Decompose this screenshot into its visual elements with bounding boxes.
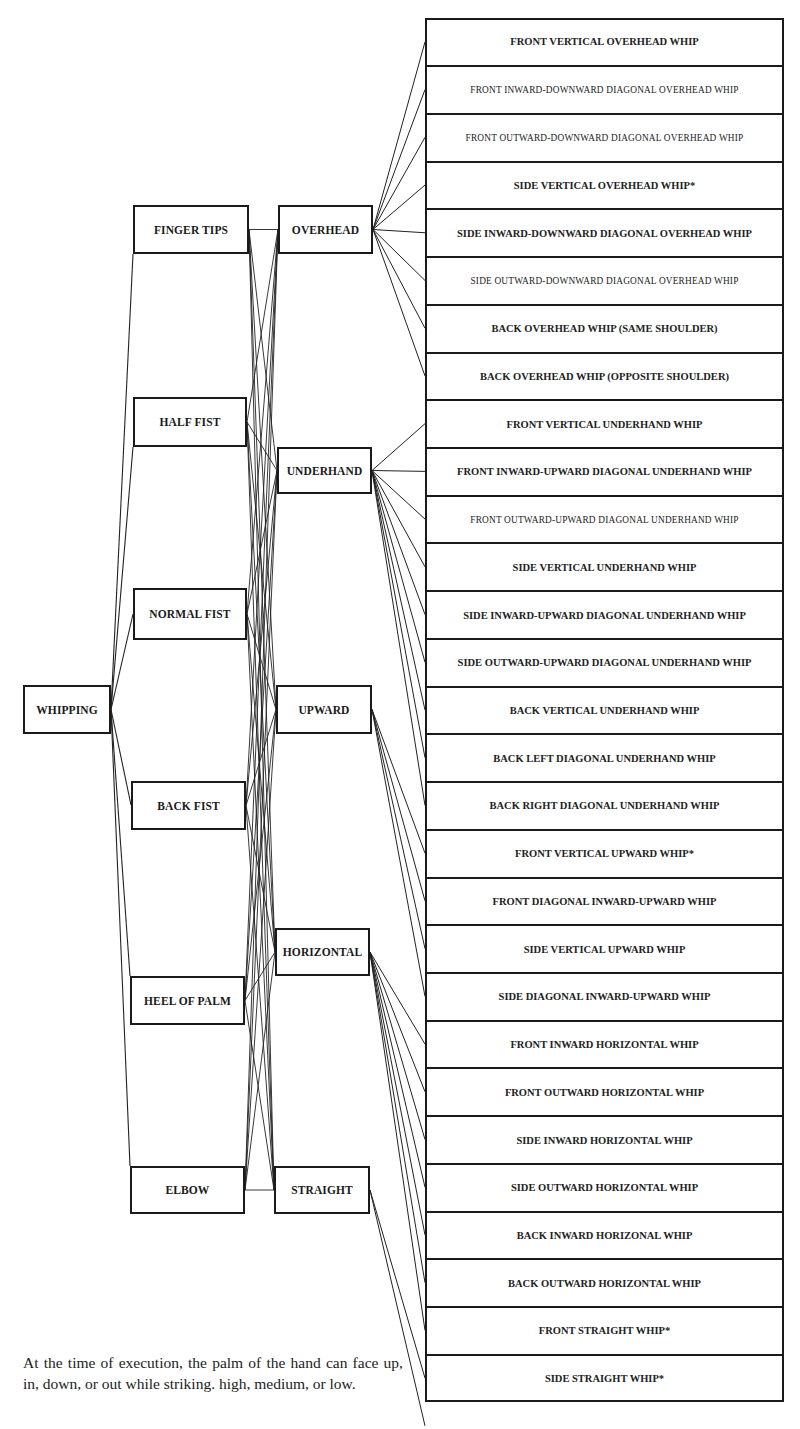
direction-horizontal: HORIZONTAL	[275, 928, 370, 976]
hand-part-half-fist: HALF FIST	[133, 397, 247, 447]
technique-row: FRONT STRAIGHT WHIP*	[427, 1306, 782, 1354]
whipping-diagram: WHIPPING FINGER TIPS HALF FIST NORMAL FI…	[0, 0, 800, 1429]
direction-upward: UPWARD	[276, 685, 372, 734]
technique-list: FRONT VERTICAL OVERHEAD WHIPFRONT INWARD…	[425, 18, 784, 1402]
direction-label: HORIZONTAL	[283, 946, 362, 958]
technique-row: SIDE INWARD HORIZONTAL WHIP	[427, 1115, 782, 1163]
caption-note: At the time of execution, the palm of th…	[23, 1352, 403, 1394]
hand-part-back-fist: BACK FIST	[131, 781, 246, 830]
hand-part-normal-fist: NORMAL FIST	[133, 588, 247, 640]
root-node-label: WHIPPING	[36, 704, 98, 716]
direction-straight: STRAIGHT	[274, 1166, 370, 1214]
technique-row: BACK RIGHT DIAGONAL UNDERHAND WHIP	[427, 781, 782, 829]
technique-row: BACK OVERHEAD WHIP (OPPOSITE SHOULDER)	[427, 352, 782, 400]
hand-part-finger-tips: FINGER TIPS	[133, 205, 249, 254]
technique-row: FRONT VERTICAL UNDERHAND WHIP	[427, 399, 782, 447]
technique-row: SIDE VERTICAL OVERHEAD WHIP*	[427, 161, 782, 209]
technique-row: FRONT OUTWARD HORIZONTAL WHIP	[427, 1067, 782, 1115]
technique-row: FRONT DIAGONAL INWARD-UPWARD WHIP	[427, 877, 782, 925]
hand-part-label: NORMAL FIST	[149, 608, 230, 620]
hand-part-label: ELBOW	[166, 1184, 210, 1196]
technique-row: SIDE DIAGONAL INWARD-UPWARD WHIP	[427, 972, 782, 1020]
technique-row: BACK LEFT DIAGONAL UNDERHAND WHIP	[427, 733, 782, 781]
technique-row: SIDE VERTICAL UPWARD WHIP	[427, 924, 782, 972]
technique-row: FRONT OUTWARD-DOWNWARD DIAGONAL OVERHEAD…	[427, 113, 782, 161]
technique-row: BACK OVERHEAD WHIP (SAME SHOULDER)	[427, 304, 782, 352]
hand-part-heel-of-palm: HEEL OF PALM	[130, 976, 245, 1025]
technique-row: SIDE INWARD-UPWARD DIAGONAL UNDERHAND WH…	[427, 590, 782, 638]
technique-row: FRONT OUTWARD-UPWARD DIAGONAL UNDERHAND …	[427, 495, 782, 543]
technique-row: FRONT VERTICAL UPWARD WHIP*	[427, 829, 782, 877]
technique-row: SIDE STRAIGHT WHIP*	[427, 1354, 782, 1402]
hand-part-label: HEEL OF PALM	[144, 995, 231, 1007]
technique-row: BACK VERTICAL UNDERHAND WHIP	[427, 686, 782, 734]
technique-row: BACK INWARD HORIZONAL WHIP	[427, 1211, 782, 1259]
direction-label: UNDERHAND	[287, 465, 363, 477]
hand-part-label: HALF FIST	[160, 416, 221, 428]
technique-row: SIDE OUTWARD-UPWARD DIAGONAL UNDERHAND W…	[427, 638, 782, 686]
technique-row: BACK OUTWARD HORIZONTAL WHIP	[427, 1258, 782, 1306]
hand-part-label: BACK FIST	[157, 800, 220, 812]
technique-row: SIDE OUTWARD-DOWNWARD DIAGONAL OVERHEAD …	[427, 256, 782, 304]
direction-label: OVERHEAD	[292, 224, 359, 236]
direction-underhand: UNDERHAND	[277, 447, 372, 494]
direction-overhead: OVERHEAD	[278, 205, 373, 254]
technique-row: FRONT INWARD HORIZONTAL WHIP	[427, 1020, 782, 1068]
hand-part-label: FINGER TIPS	[154, 224, 228, 236]
direction-label: STRAIGHT	[291, 1184, 353, 1196]
technique-row: FRONT INWARD-DOWNWARD DIAGONAL OVERHEAD …	[427, 65, 782, 113]
technique-row: FRONT VERTICAL OVERHEAD WHIP	[427, 18, 782, 66]
hand-part-elbow: ELBOW	[130, 1166, 245, 1214]
technique-row: SIDE VERTICAL UNDERHAND WHIP	[427, 542, 782, 590]
technique-row: SIDE INWARD-DOWNWARD DIAGONAL OVERHEAD W…	[427, 208, 782, 256]
direction-label: UPWARD	[298, 704, 349, 716]
technique-row: SIDE OUTWARD HORIZONTAL WHIP	[427, 1163, 782, 1211]
root-node-whipping: WHIPPING	[23, 685, 111, 734]
technique-row: FRONT INWARD-UPWARD DIAGONAL UNDERHAND W…	[427, 447, 782, 495]
